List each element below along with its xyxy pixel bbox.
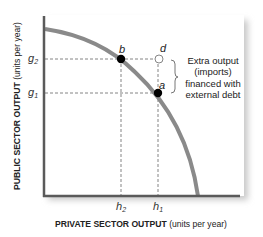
annotation-line-4: external debt [186, 89, 241, 100]
plot-panel [44, 15, 244, 196]
label-d: d [160, 42, 167, 54]
point-b [117, 55, 125, 63]
ppc-diagram: b d a g2 g1 h2 h1 Extra output (imports)… [0, 0, 263, 237]
y-tick-g2: g2 [28, 52, 38, 65]
annotation-line-3: financed with [185, 78, 240, 89]
x-tick-h2: h2 [116, 200, 126, 213]
label-b: b [119, 43, 125, 55]
annotation-line-2: (imports) [194, 66, 231, 77]
annotation-text: Extra output (imports) financed with ext… [185, 55, 241, 100]
annotation-line-1: Extra output [187, 55, 239, 66]
point-d [155, 55, 163, 63]
y-axis-label: PUBLIC SECTOR OUTPUT (units per year) [12, 22, 22, 190]
y-tick-g1: g1 [28, 86, 38, 99]
label-a: a [159, 79, 165, 91]
x-axis-label: PRIVATE SECTOR OUTPUT (units per year) [55, 219, 227, 229]
x-tick-h1: h1 [153, 200, 163, 213]
